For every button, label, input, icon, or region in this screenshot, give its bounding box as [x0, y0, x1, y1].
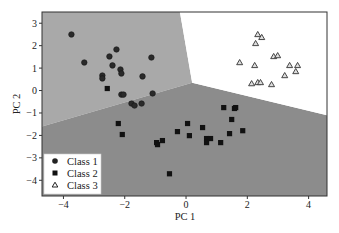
point-class-2 — [175, 129, 180, 134]
point-class-2 — [204, 140, 209, 145]
point-class-1 — [140, 74, 146, 80]
point-class-2 — [155, 142, 160, 147]
x-tick-label: 4 — [306, 199, 311, 210]
legend-label-class-2: Class 2 — [67, 168, 98, 179]
legend-label-class-1: Class 1 — [67, 156, 98, 167]
y-tick-label: 3 — [32, 18, 37, 29]
point-class-2 — [167, 171, 172, 176]
scatter-chart: −4−2024 −4−3−2−10123 PC 1 PC 2 Class 1 C… — [0, 0, 339, 233]
point-class-2 — [187, 133, 192, 138]
point-class-1 — [121, 92, 127, 98]
y-tick-label: −3 — [26, 152, 37, 163]
point-class-2 — [105, 86, 110, 91]
y-tick-label: 2 — [32, 40, 37, 51]
x-tick-label: −2 — [119, 199, 130, 210]
legend-label-class-3: Class 3 — [67, 180, 98, 191]
point-class-1 — [110, 63, 116, 69]
point-class-2 — [218, 140, 223, 145]
point-class-1 — [149, 55, 155, 61]
y-tick-label: −2 — [26, 130, 37, 141]
y-tick-label: 0 — [32, 85, 37, 96]
point-class-2 — [116, 121, 121, 126]
point-class-1 — [119, 71, 125, 77]
point-class-1 — [114, 47, 120, 53]
point-class-2 — [229, 117, 234, 122]
x-tick-label: 2 — [245, 199, 250, 210]
point-class-2 — [227, 131, 232, 136]
point-class-2 — [120, 132, 125, 137]
legend: Class 1 Class 2 Class 3 — [44, 154, 101, 194]
y-axis-label: PC 2 — [11, 94, 22, 115]
y-axis-ticks: −4−3−2−10123 — [26, 18, 42, 186]
x-axis-ticks: −4−2024 — [58, 196, 311, 210]
point-class-1 — [132, 103, 138, 109]
legend-circle-icon — [52, 158, 58, 164]
point-class-1 — [69, 32, 75, 38]
x-tick-label: 0 — [184, 199, 189, 210]
point-class-2 — [185, 121, 190, 126]
y-tick-label: −1 — [26, 107, 37, 118]
point-class-2 — [160, 138, 165, 143]
point-class-1 — [81, 60, 87, 66]
point-class-1 — [139, 101, 145, 107]
point-class-2 — [240, 128, 245, 133]
point-class-2 — [233, 105, 238, 110]
point-class-1 — [107, 54, 113, 60]
point-class-2 — [221, 105, 226, 110]
point-class-1 — [150, 91, 156, 97]
legend-square-icon — [53, 171, 58, 176]
x-axis-label: PC 1 — [175, 211, 196, 222]
x-tick-label: −4 — [58, 199, 69, 210]
y-tick-label: −4 — [26, 175, 37, 186]
y-tick-label: 1 — [32, 63, 37, 74]
point-class-2 — [200, 125, 205, 130]
point-class-1 — [100, 76, 106, 82]
